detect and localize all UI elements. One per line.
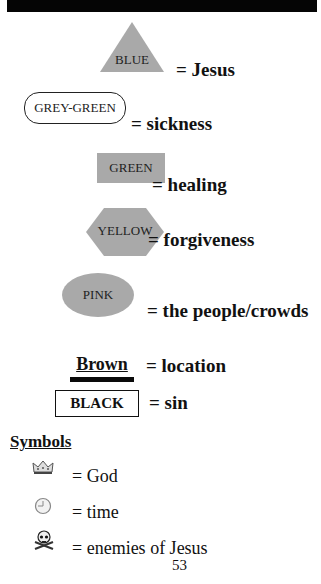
blue-triangle-shape: BLUE <box>100 22 164 72</box>
shape-label: BLUE <box>112 52 152 68</box>
black-box-shape: BLACK <box>55 390 139 417</box>
symbol-meaning-enemies: = enemies of Jesus <box>72 538 208 559</box>
shape-label: PINK <box>83 287 113 303</box>
symbol-meaning-time: = time <box>72 502 119 523</box>
clock-icon <box>34 497 56 517</box>
key-meaning-forgiveness: = forgiveness <box>148 229 254 251</box>
symbol-meaning-god: = God <box>72 466 118 487</box>
shape-label: GREY-GREEN <box>34 100 116 116</box>
key-meaning-healing: = healing <box>152 174 227 196</box>
key-meaning-people: = the people/crowds <box>147 300 308 322</box>
brown-bar <box>70 377 134 382</box>
key-meaning-sickness: = sickness <box>131 113 212 135</box>
crown-icon <box>32 460 54 480</box>
page-number: 53 <box>172 557 187 574</box>
shape-label: Brown <box>70 354 134 375</box>
key-meaning-sin: = sin <box>149 392 188 414</box>
key-meaning-jesus: = Jesus <box>176 59 235 81</box>
brown-underline-shape: Brown <box>70 354 134 382</box>
shape-label: GREEN <box>109 160 152 176</box>
header-bar <box>7 0 317 12</box>
symbols-heading: Symbols <box>10 432 71 452</box>
shape-label: BLACK <box>70 395 123 412</box>
key-meaning-location: = location <box>146 355 226 377</box>
pink-ellipse-shape: PINK <box>62 273 134 317</box>
grey-green-rounded-shape: GREY-GREEN <box>24 92 126 124</box>
skull-crossbones-icon <box>33 530 55 550</box>
